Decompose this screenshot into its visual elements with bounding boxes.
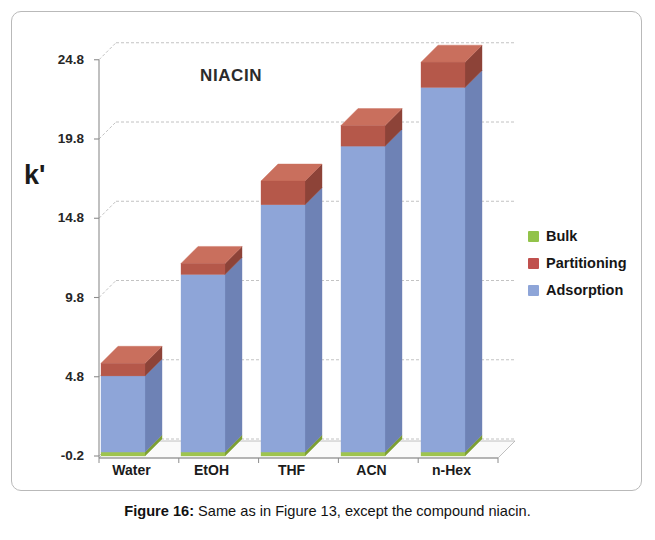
bar-acn-adsorption: [341, 129, 402, 452]
y-tick-label-5: -0.2: [36, 448, 84, 463]
bar-group-thf[interactable]: [261, 164, 322, 456]
bar-n-hex-partitioning-front: [421, 62, 465, 87]
legend-label-adsorption: Adsorption: [546, 282, 623, 298]
gridline-depth-5: [99, 43, 116, 60]
legend-label-bulk: Bulk: [546, 228, 577, 244]
bar-etoh-adsorption: [181, 258, 242, 453]
gridline-depth-3: [99, 201, 116, 218]
legend-label-partitioning: Partitioning: [546, 255, 627, 271]
y-tick-label-1: 19.8: [36, 131, 84, 146]
bar-etoh-adsorption-side: [225, 258, 242, 453]
bar-etoh-bulk-front: [181, 452, 225, 456]
bar-group-acn[interactable]: [341, 109, 402, 456]
bar-acn-adsorption-front: [341, 146, 385, 452]
bar-acn-partitioning-front: [341, 126, 385, 147]
y-axis-title: k': [24, 160, 45, 191]
x-category-label-water: Water: [87, 462, 177, 478]
y-tick-label-3: 9.8: [36, 290, 84, 305]
bar-thf-partitioning-front: [261, 181, 305, 205]
chart-legend: Bulk Partitioning Adsorption: [528, 224, 652, 305]
bar-thf-bulk-front: [261, 452, 305, 456]
legend-swatch-adsorption-icon: [528, 285, 539, 296]
bar-n-hex-adsorption: [421, 70, 482, 452]
legend-swatch-partitioning-icon: [528, 258, 539, 269]
figure-caption-label: Figure 16:: [124, 503, 194, 519]
bar-group-etoh[interactable]: [181, 246, 242, 456]
bar-thf-adsorption: [261, 188, 322, 452]
bar-water-partitioning-front: [101, 363, 145, 376]
legend-swatch-bulk-icon: [528, 231, 539, 242]
bar-etoh-partitioning-front: [181, 263, 225, 274]
x-category-label-acn: ACN: [327, 462, 417, 478]
legend-item-partitioning[interactable]: Partitioning: [528, 251, 652, 275]
y-tick-label-2: 14.8: [36, 210, 84, 225]
gridline-depth-4: [99, 122, 116, 139]
x-category-label-etoh: EtOH: [167, 462, 257, 478]
x-category-label-nhex: n-Hex: [407, 462, 497, 478]
bar-water-adsorption-front: [101, 376, 145, 452]
bar-n-hex-adsorption-side: [465, 70, 482, 452]
bar-group-water[interactable]: [101, 346, 162, 456]
y-tick-label-4: 4.8: [36, 369, 84, 384]
legend-item-bulk[interactable]: Bulk: [528, 224, 652, 248]
bar-n-hex-adsorption-front: [421, 87, 465, 452]
y-tick-label-0: 24.8: [36, 52, 84, 67]
x-category-label-thf: THF: [247, 462, 337, 478]
bar-etoh-adsorption-front: [181, 275, 225, 453]
bar-water-bulk-front: [101, 452, 145, 456]
bar-acn-adsorption-side: [385, 129, 402, 452]
bar-acn-bulk-front: [341, 452, 385, 456]
gridline-depth-2: [99, 281, 116, 298]
bar-group-n-hex[interactable]: [421, 45, 482, 456]
bar-n-hex-bulk-front: [421, 452, 465, 456]
bar-thf-adsorption-front: [261, 205, 305, 452]
figure-caption-text: Same as in Figure 13, except the compoun…: [194, 503, 531, 519]
legend-item-adsorption[interactable]: Adsorption: [528, 278, 652, 302]
chart-title: NIACIN: [200, 66, 262, 86]
bar-thf-adsorption-side: [305, 188, 322, 452]
figure-caption: Figure 16: Same as in Figure 13, except …: [0, 503, 655, 519]
